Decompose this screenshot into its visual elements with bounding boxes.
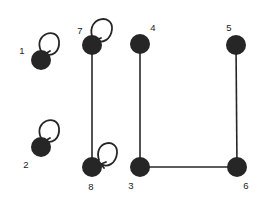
node-label: 8 — [88, 181, 93, 192]
graph-node[interactable] — [130, 157, 150, 177]
graph-diagram-svg: 12345678 — [0, 0, 264, 201]
graph-node[interactable] — [31, 50, 51, 70]
graph-node[interactable] — [31, 137, 51, 157]
graph-node[interactable] — [82, 35, 102, 55]
node-label: 1 — [19, 45, 24, 56]
self-loops-layer — [39, 19, 117, 168]
node-label: 7 — [77, 25, 82, 36]
node-label: 2 — [23, 159, 28, 170]
graph-node[interactable] — [82, 157, 102, 177]
node-label: 6 — [243, 180, 248, 191]
graph-node[interactable] — [130, 34, 150, 54]
edges-layer — [92, 44, 237, 167]
graph-figure-canvas: 12345678 — [0, 0, 264, 201]
graph-node[interactable] — [226, 35, 246, 55]
graph-edge — [236, 45, 237, 167]
self-loop — [98, 143, 117, 165]
nodes-layer — [31, 34, 247, 177]
node-label: 4 — [150, 22, 155, 33]
node-label: 5 — [226, 22, 231, 33]
node-label: 3 — [128, 180, 133, 191]
graph-node[interactable] — [227, 157, 247, 177]
